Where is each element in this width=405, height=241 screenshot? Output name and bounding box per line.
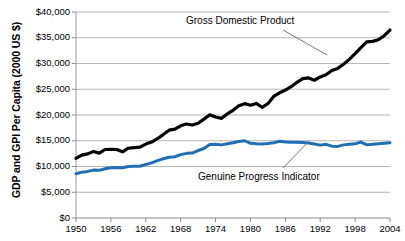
- chart-container: GDP and GPI Per Capita (2000 US $) $0$5,…: [0, 0, 405, 241]
- gridlines-group: [72, 12, 390, 218]
- y-tick-label: $40,000: [12, 7, 70, 17]
- y-tick-label: $25,000: [12, 84, 70, 94]
- x-tick-label: 2004: [370, 224, 405, 234]
- y-tick-label: $15,000: [12, 135, 70, 145]
- y-tick-label: $35,000: [12, 32, 70, 42]
- y-tick-label: $5,000: [12, 187, 70, 197]
- series-line-gdp: [76, 30, 390, 158]
- y-tick-label: $20,000: [12, 110, 70, 120]
- series-annotation-gpi: Genuine Progress Indicator: [198, 171, 320, 182]
- series-annotation-gdp: Gross Domestic Product: [186, 15, 294, 26]
- y-tick-label: $0: [12, 213, 70, 223]
- annotation-leader-line: [283, 30, 327, 55]
- series-line-gpi: [76, 141, 390, 174]
- annotation-leader-lines-group: [283, 30, 327, 168]
- annotation-leader-line: [283, 141, 309, 168]
- y-tick-label: $10,000: [12, 161, 70, 171]
- x-tick-marks-group: [76, 218, 390, 222]
- series-lines-group: [76, 30, 390, 174]
- y-tick-label: $30,000: [12, 58, 70, 68]
